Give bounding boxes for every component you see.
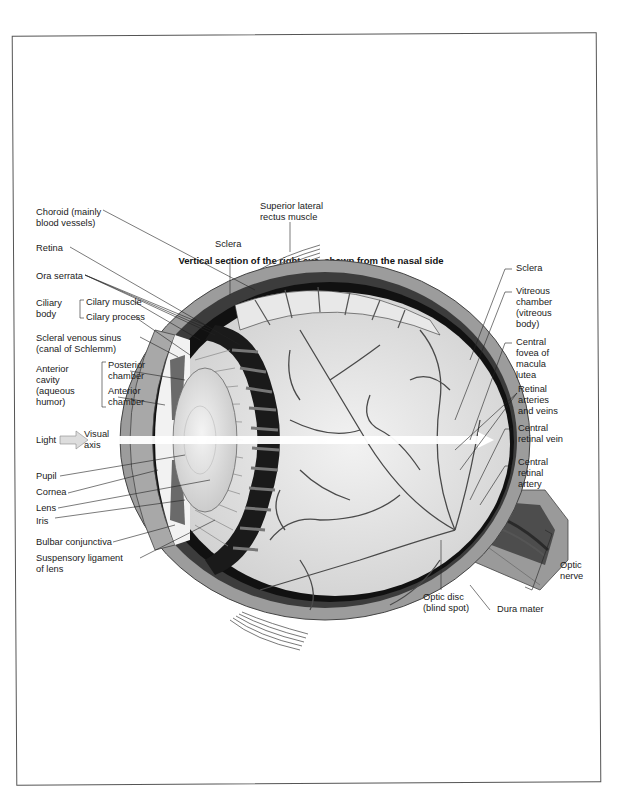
label-pupil: Pupil <box>36 471 57 482</box>
label-line: Central <box>518 423 563 434</box>
label-iris: Iris <box>36 516 48 527</box>
label-line: Posterior <box>108 360 145 371</box>
label-line: Superior lateral <box>260 201 323 212</box>
label-light: Light <box>36 435 56 446</box>
label-superior-lateral-rectus: Superior lateral rectus muscle <box>260 201 323 223</box>
label-ciliary-muscle: Cilary muscle <box>86 297 142 308</box>
label-anterior-cavity: Anterior cavity (aqueous humor) <box>36 364 75 408</box>
label-anterior-chamber: Anterior chamber <box>108 386 144 408</box>
label-line: blood vessels) <box>36 218 101 229</box>
label-line: Choroid (mainly <box>36 207 101 218</box>
label-posterior-chamber: Posterior chamber <box>108 360 145 382</box>
label-cornea: Cornea <box>36 487 67 498</box>
label-line: body <box>36 309 62 320</box>
label-sclera-right: Sclera <box>516 263 542 274</box>
label-line: body) <box>516 319 552 330</box>
label-choroid: Choroid (mainly blood vessels) <box>36 207 101 229</box>
label-line: chamber <box>108 397 144 408</box>
label-line: Optic disc <box>423 592 469 603</box>
label-line: Anterior <box>108 386 144 397</box>
label-ora-serrata: Ora serrata <box>36 271 83 282</box>
visual-axis <box>118 436 478 444</box>
label-retina: Retina <box>36 243 63 254</box>
label-line: Anterior <box>36 364 75 375</box>
label-line: Central <box>518 457 548 468</box>
label-line: arteries <box>518 395 558 406</box>
label-line: fovea of <box>516 348 549 359</box>
label-ciliary-process: Cilary process <box>86 312 145 323</box>
label-ciliary-body: Ciliary body <box>36 298 62 320</box>
label-line: Vitreous <box>516 286 552 297</box>
label-line: Scleral venous sinus <box>36 333 121 344</box>
label-scleral-venous-sinus: Scleral venous sinus (canal of Schlemm) <box>36 333 121 355</box>
label-line: Retinal <box>518 384 558 395</box>
label-line: Optic <box>560 560 583 571</box>
label-line: rectus muscle <box>260 212 323 223</box>
label-visual-axis: Visual axis <box>84 429 109 451</box>
label-line: retinal <box>518 468 548 479</box>
label-vitreous-chamber: Vitreous chamber (vitreous body) <box>516 286 552 330</box>
label-line: Suspensory ligament <box>36 553 123 564</box>
label-retinal-arteries-veins: Retinal arteries and veins <box>518 384 558 417</box>
label-line: Central <box>516 337 549 348</box>
label-line: cavity <box>36 375 75 386</box>
label-bulbar-conjunctiva: Bulbar conjunctiva <box>36 537 112 548</box>
label-line: and veins <box>518 406 558 417</box>
label-suspensory-ligament: Suspensory ligament of lens <box>36 553 123 575</box>
label-dura-mater: Dura mater <box>497 604 544 615</box>
label-line: humor) <box>36 397 75 408</box>
label-line: (canal of Schlemm) <box>36 344 121 355</box>
label-line: retinal vein <box>518 434 563 445</box>
label-line: macula <box>516 359 549 370</box>
label-lens: Lens <box>36 503 56 514</box>
label-line: (vitreous <box>516 308 552 319</box>
label-optic-nerve: Optic nerve <box>560 560 583 582</box>
label-optic-disc: Optic disc (blind spot) <box>423 592 469 614</box>
label-line: axis <box>84 440 109 451</box>
label-line: Ciliary <box>36 298 62 309</box>
label-line: artery <box>518 479 548 490</box>
label-line: chamber <box>516 297 552 308</box>
label-line: of lens <box>36 564 123 575</box>
label-line: (aqueous <box>36 386 75 397</box>
label-central-fovea: Central fovea of macula lutea <box>516 337 549 381</box>
label-line: (blind spot) <box>423 603 469 614</box>
label-line: lutea <box>516 370 549 381</box>
label-sclera-top: Sclera <box>215 239 241 250</box>
label-central-retinal-artery: Central retinal artery <box>518 457 548 490</box>
label-central-retinal-vein: Central retinal vein <box>518 423 563 445</box>
label-line: chamber <box>108 371 145 382</box>
label-line: nerve <box>560 571 583 582</box>
label-line: Visual <box>84 429 109 440</box>
